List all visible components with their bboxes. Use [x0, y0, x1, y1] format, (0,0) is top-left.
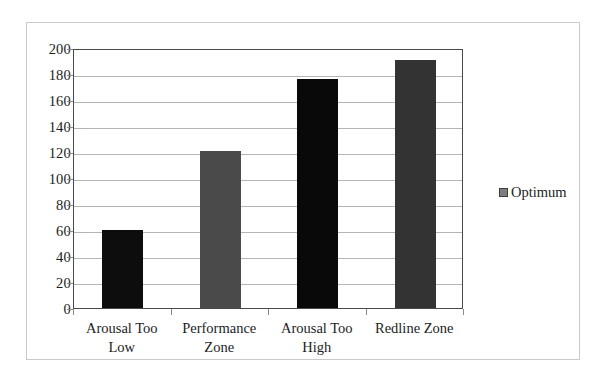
- y-tick-label-60: 60: [27, 224, 71, 239]
- x-tick-mark-1: [171, 309, 172, 315]
- x-axis-tick-labels: Arousal Too LowPerformance ZoneArousal T…: [73, 319, 463, 365]
- bar-arousal-too-high: [297, 79, 338, 308]
- bar-redline-zone: [395, 60, 436, 308]
- x-tick-mark-4: [463, 309, 464, 315]
- y-tick-label-20: 20: [27, 276, 71, 291]
- x-tick-mark-3: [366, 309, 367, 315]
- x-tick-label-performance-zone: Performance Zone: [171, 319, 269, 356]
- y-tick-label-80: 80: [27, 198, 71, 213]
- legend-swatch-optimum-icon: [499, 188, 508, 197]
- bar-performance-zone: [200, 151, 241, 308]
- bar-series-optimum: [74, 50, 462, 308]
- bar-arousal-too-low: [102, 230, 143, 308]
- y-tick-label-140: 140: [27, 120, 71, 135]
- x-tick-mark-0: [73, 309, 74, 315]
- chart-legend: Optimum: [499, 185, 567, 200]
- plot-area: [73, 49, 463, 309]
- legend-label-optimum: Optimum: [511, 185, 567, 200]
- x-tick-label-arousal-too-high: Arousal Too High: [268, 319, 366, 356]
- y-tick-label-180: 180: [27, 68, 71, 83]
- y-tick-label-40: 40: [27, 250, 71, 265]
- x-axis-tick-marks: [73, 309, 463, 315]
- x-tick-label-arousal-too-low: Arousal Too Low: [73, 319, 171, 356]
- y-tick-label-120: 120: [27, 146, 71, 161]
- x-tick-label-redline-zone: Redline Zone: [366, 319, 464, 338]
- y-tick-label-200: 200: [27, 42, 71, 57]
- x-tick-mark-2: [268, 309, 269, 315]
- y-axis-tick-labels: 020406080100120140160180200: [27, 49, 71, 309]
- y-tick-label-160: 160: [27, 94, 71, 109]
- chart-frame: 020406080100120140160180200 Arousal Too …: [26, 22, 580, 360]
- y-tick-label-100: 100: [27, 172, 71, 187]
- y-tick-label-0: 0: [27, 302, 71, 317]
